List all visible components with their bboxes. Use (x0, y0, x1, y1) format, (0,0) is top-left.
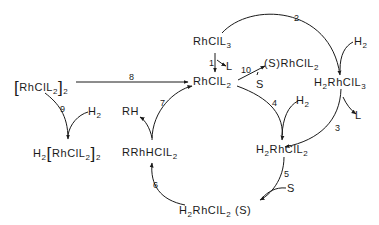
step-8: 8 (129, 73, 134, 82)
formula-text: RhClL (19, 81, 53, 93)
subscript: 2 (188, 210, 193, 219)
reagent-H2-step9: H2 (88, 106, 102, 117)
bracket: [ (47, 144, 52, 163)
subscript: 3 (361, 82, 366, 91)
subscript: 2 (265, 149, 270, 158)
species-h2rhcll3: H2RhClL3 (314, 77, 366, 88)
formula-text: (S) (231, 204, 251, 216)
reagent-L-step3: L (355, 110, 362, 121)
formula-text: H (354, 35, 363, 47)
formula-text: H (88, 105, 97, 117)
step-7: 7 (160, 99, 165, 108)
species-rhcll3: RhClL3 (193, 36, 232, 47)
step-4: 4 (272, 99, 277, 108)
step-9: 9 (60, 105, 65, 114)
formula-text: H (33, 147, 42, 159)
subscript: 2 (63, 87, 68, 96)
step-3: 3 (335, 124, 340, 133)
formula-text: RhClL (193, 75, 227, 87)
subscript: 2 (42, 153, 47, 162)
species-rrhhcll2: RRhHClL2 (122, 147, 178, 158)
species-dimer: [RhClL2]2 (14, 77, 68, 94)
formula-text: H (314, 76, 323, 88)
step-10: 10 (241, 66, 251, 75)
formula-text: RhClL (328, 76, 362, 88)
subscript: 3 (227, 41, 232, 50)
formula-text: RhClL (52, 147, 86, 159)
reagent-S-step5: S (287, 183, 295, 194)
step-2: 2 (294, 14, 299, 23)
subscript: 2 (173, 152, 178, 161)
subscript: 2 (227, 81, 232, 90)
bracket: [ (14, 78, 19, 97)
reaction-arrows (0, 0, 379, 225)
formula-text: (S)RhClL (264, 57, 314, 69)
subscript: 2 (226, 210, 231, 219)
species-h2rhcll2-s: H2RhClL2 (S) (179, 205, 251, 216)
formula-text: H (256, 143, 265, 155)
step-6: 6 (153, 181, 158, 190)
subscript: 2 (303, 149, 308, 158)
reagent-L-step1: L (226, 61, 233, 72)
subscript: 2 (96, 153, 101, 162)
subscript: 2 (363, 41, 368, 50)
reagent-S-step10: S (256, 79, 264, 90)
subscript: 2 (305, 100, 310, 109)
reagent-H2-step4: H2 (296, 95, 310, 106)
subscript: 2 (97, 111, 102, 120)
formula-text: RhClL (193, 204, 227, 216)
formula-text: RhClL (193, 35, 227, 47)
product-RH: RH (122, 106, 139, 117)
subscript: 2 (323, 82, 328, 91)
species-h2-dimer: H2[RhClL2]2 (33, 143, 101, 160)
species-h2rhcll2: H2RhClL2 (256, 144, 308, 155)
catalytic-cycle-diagram: RhClL3 H2RhClL3 RhClL2 (S)RhClL2 H2RhClL… (0, 0, 379, 225)
reagent-H2-step2: H2 (354, 36, 368, 47)
species-rhcll2: RhClL2 (193, 76, 232, 87)
formula-text: H (296, 94, 305, 106)
subscript: 2 (86, 153, 91, 162)
step-1: 1 (209, 59, 214, 68)
formula-text: RRhHClL (122, 146, 173, 158)
species-srhcll2: (S)RhClL2 (264, 58, 319, 69)
formula-text: RhClL (270, 143, 304, 155)
formula-text: H (179, 204, 188, 216)
step-5: 5 (284, 170, 289, 179)
subscript: 2 (314, 63, 319, 72)
